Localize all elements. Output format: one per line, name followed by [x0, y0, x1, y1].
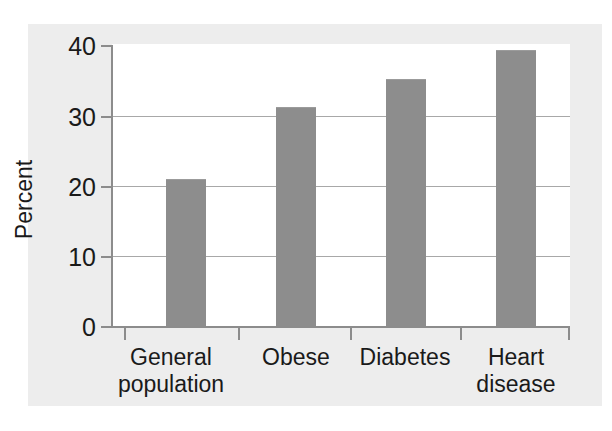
- chart-figure: 40 30 20 10 0 Percent General population…: [0, 0, 612, 431]
- bar-heart-disease[interactable]: [496, 50, 536, 327]
- x-tick-mark-5: [568, 328, 570, 340]
- y-tick-mark-0: [101, 326, 112, 328]
- x-axis-label-diabetes: Diabetes: [350, 344, 460, 371]
- bar-diabetes[interactable]: [386, 79, 426, 327]
- x-tick-mark-4: [460, 328, 462, 340]
- y-tick-mark-10: [101, 256, 112, 258]
- y-tick-label-30: 30: [52, 103, 96, 132]
- y-tick-mark-20: [101, 186, 112, 188]
- y-axis-title: Percent: [11, 140, 38, 260]
- x-tick-mark-1: [124, 328, 126, 340]
- y-tick-label-20: 20: [52, 173, 96, 202]
- x-axis-label-general-population: General population: [116, 344, 226, 398]
- x-tick-mark-2: [238, 328, 240, 340]
- y-tick-label-40: 40: [52, 32, 96, 61]
- y-tick-mark-40: [101, 45, 112, 47]
- x-tick-mark-3: [350, 328, 352, 340]
- y-axis-tick-labels: 40 30 20 10 0: [50, 0, 96, 431]
- bar-general-population[interactable]: [166, 179, 206, 327]
- bar-obese[interactable]: [276, 107, 316, 327]
- y-tick-mark-30: [101, 116, 112, 118]
- y-tick-label-0: 0: [52, 313, 96, 342]
- y-tick-label-10: 10: [52, 243, 96, 272]
- x-axis-line: [111, 326, 570, 328]
- x-axis-label-obese: Obese: [242, 344, 350, 371]
- x-axis-label-heart-disease: Heart disease: [462, 344, 570, 398]
